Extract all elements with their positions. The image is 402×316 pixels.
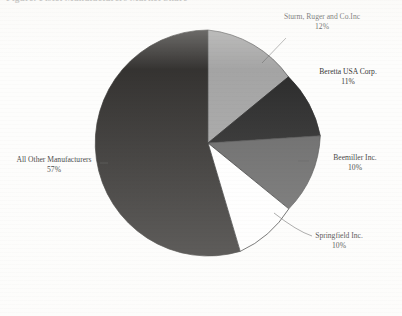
- pie-label-name: All Other Manufacturers: [2, 155, 106, 165]
- pie-label-sturm-ruger-and-co-inc: Sturm, Ruger and Co.Inc 12%: [247, 12, 397, 32]
- pie-label-name: Beretta USA Corp.: [296, 67, 400, 77]
- pie-label-beretta-usa-corp: Beretta USA Corp. 11%: [296, 67, 400, 87]
- pie-label-name: Springfield Inc.: [284, 231, 394, 241]
- pie-label-name: Beemiller Inc.: [311, 153, 399, 163]
- pie-label-percent: 11%: [296, 77, 400, 87]
- pie-label-name: Sturm, Ruger and Co.Inc: [247, 12, 397, 22]
- leader-line-sturm-ruger: [262, 38, 286, 63]
- pie-label-percent: 10%: [311, 163, 399, 173]
- pie-label-percent: 10%: [284, 241, 394, 251]
- pie-label-beemiller-inc: Beemiller Inc. 10%: [311, 153, 399, 173]
- pie-label-all-other-manufacturers: All Other Manufacturers 57%: [2, 155, 106, 175]
- pie-label-percent: 12%: [247, 22, 397, 32]
- scanned-figure-page: Figure: Pistol Manufacturers Market Shar…: [0, 0, 402, 316]
- pie-label-percent: 57%: [2, 165, 106, 175]
- pie-label-springfield-inc: Springfield Inc. 10%: [284, 231, 394, 251]
- figure-title: Figure: Pistol Manufacturers Market Shar…: [6, 0, 187, 3]
- figure-title-clipped: Figure: Pistol Manufacturers Market Shar…: [0, 0, 402, 7]
